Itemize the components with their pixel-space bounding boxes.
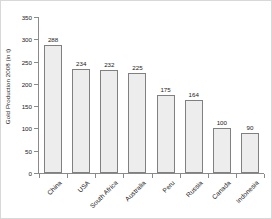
bar [44, 45, 62, 173]
y-axis-tick-label: 250 [1, 58, 32, 65]
bar [72, 69, 90, 173]
y-axis-tick-label: 150 [1, 103, 32, 110]
bar [100, 70, 118, 173]
x-axis-tick [180, 174, 181, 178]
bar [213, 128, 231, 173]
y-axis-tick [34, 84, 38, 85]
bar-chart-figure: Gold Production 2008 (in t) 050100150200… [0, 0, 272, 219]
x-axis-tick [123, 174, 124, 178]
bar [185, 100, 203, 173]
x-axis-tick [236, 174, 237, 178]
bar-value-label: 100 [217, 119, 227, 126]
bar-value-label: 288 [48, 36, 58, 43]
x-axis-category-label: Russia [184, 179, 203, 198]
y-axis-tick-label: 0 [1, 170, 32, 177]
x-axis-tick [152, 174, 153, 178]
y-axis-tick [34, 173, 38, 174]
y-axis-tick-label: 200 [1, 80, 32, 87]
x-axis-tick [264, 174, 265, 178]
x-axis-category-label: Peru [161, 179, 176, 194]
x-axis-tick [208, 174, 209, 178]
bar-value-label: 175 [160, 86, 170, 93]
x-axis-category-label: Australia [124, 179, 147, 202]
y-axis-tick [34, 106, 38, 107]
y-axis-tick-label: 50 [1, 147, 32, 154]
plot-area: 28823423222517516410090 [39, 17, 264, 173]
bar-value-label: 232 [104, 61, 114, 68]
y-axis-tick [34, 151, 38, 152]
y-axis-tick [34, 39, 38, 40]
x-axis-tick [39, 174, 40, 178]
x-axis-tick [67, 174, 68, 178]
y-axis-tick [34, 17, 38, 18]
bar-value-label: 234 [76, 60, 86, 67]
bar-value-label: 225 [132, 64, 142, 71]
y-axis-tick-label: 300 [1, 36, 32, 43]
bar [157, 95, 175, 173]
y-axis-tick-label: 350 [1, 14, 32, 21]
x-axis-category-label: Canada [210, 179, 232, 201]
x-axis-category-label: USA [76, 179, 91, 194]
x-axis-tick [95, 174, 96, 178]
bar [241, 133, 259, 173]
bar-value-label: 90 [246, 124, 253, 131]
y-axis-tick-label: 100 [1, 125, 32, 132]
x-axis-category-label: China [46, 179, 63, 196]
x-axis-category-label: Indonesia [234, 179, 259, 204]
bar [128, 73, 146, 173]
x-axis-category-label: South Africa [89, 179, 120, 210]
y-axis-tick [34, 128, 38, 129]
y-axis-tick [34, 62, 38, 63]
bar-value-label: 164 [189, 91, 199, 98]
